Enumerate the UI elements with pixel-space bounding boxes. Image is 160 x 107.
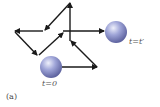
start-time-label: t=0 bbox=[42, 79, 57, 88]
arrow-segment-2 bbox=[71, 41, 97, 67]
arrow-segment-4 bbox=[45, 3, 70, 30]
arrow-segment-6 bbox=[15, 32, 37, 55]
ball-end bbox=[105, 21, 127, 43]
panel-label: (a) bbox=[6, 92, 17, 101]
arrow-segment-7 bbox=[39, 33, 63, 55]
path-arrows bbox=[15, 3, 104, 67]
random-walk-diagram bbox=[0, 0, 160, 107]
ball-start bbox=[40, 56, 62, 78]
end-time-label: t=t′ bbox=[129, 37, 144, 46]
